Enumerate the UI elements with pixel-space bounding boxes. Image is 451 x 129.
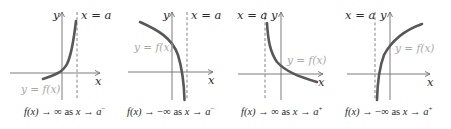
asymptote-label: x = a xyxy=(237,8,267,22)
panel-1: y x = a x y = f(x) f(x) → ∞ as x → a− xyxy=(10,8,111,118)
x-axis-label: x xyxy=(318,75,325,89)
function-curve xyxy=(377,24,422,100)
function-label: y = f(x) xyxy=(286,54,326,66)
function-label: y = f(x) xyxy=(133,41,173,53)
y-axis-label: y xyxy=(270,8,278,22)
panel-3: x = a y x y = f(x) f(x) → ∞ as x → a+ xyxy=(237,8,326,118)
asymptote-label: x = a xyxy=(81,8,111,22)
panel-4: x = a y x y = f(x) f(x) → −∞ as x → a+ xyxy=(345,8,434,118)
y-axis-label: y xyxy=(52,8,60,22)
function-curve xyxy=(267,23,317,82)
vertical-asymptote-figure: y x = a x y = f(x) f(x) → ∞ as x → a− y … xyxy=(0,0,451,129)
x-axis-label: x xyxy=(95,74,102,88)
x-axis-label: x xyxy=(427,75,434,89)
function-curve xyxy=(43,21,76,79)
y-axis-label: y xyxy=(379,8,387,22)
function-label: y = f(x) xyxy=(20,83,60,95)
caption: f(x) → ∞ as x → a+ xyxy=(241,105,323,118)
caption: f(x) → −∞ as x → a+ xyxy=(345,105,432,118)
asymptote-label: x = a xyxy=(345,8,375,22)
panel-2: y x = a x y = f(x) f(x) → −∞ as x → a− xyxy=(127,8,221,118)
caption: f(x) → −∞ as x → a− xyxy=(127,105,214,118)
function-curve xyxy=(140,22,185,100)
asymptote-label: x = a xyxy=(191,8,221,22)
y-axis-label: y xyxy=(162,8,170,22)
caption: f(x) → ∞ as x → a− xyxy=(24,105,106,118)
x-axis-label: x xyxy=(208,73,215,87)
function-label: y = f(x) xyxy=(394,42,434,54)
